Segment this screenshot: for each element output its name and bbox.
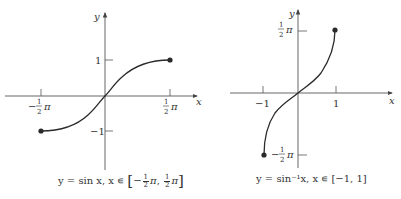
sin-y-label-1: 1 bbox=[95, 55, 101, 66]
sin-graph: x y 1 −1 − 1 2 π 1 2 π bbox=[5, 11, 202, 170]
svg-text:1: 1 bbox=[37, 98, 41, 106]
sin-caption: y = sin x, x ∊ [−12π, 12π] bbox=[58, 172, 184, 190]
svg-text:2: 2 bbox=[279, 31, 283, 39]
arcsin-curve bbox=[264, 30, 335, 155]
svg-text:2: 2 bbox=[164, 108, 168, 116]
arcsin-x-label-1: 1 bbox=[333, 98, 339, 109]
sin-curve bbox=[41, 60, 170, 131]
sin-caption-close-bracket: ] bbox=[178, 172, 184, 190]
arcsin-y-label-neg-half-pi: − 1 2 π bbox=[271, 146, 294, 164]
svg-text:−: − bbox=[271, 149, 279, 160]
sin-x-axis-label: x bbox=[196, 96, 202, 107]
sin-caption-prefix: y = sin x, x ∊ bbox=[58, 175, 127, 186]
figure-canvas: x y 1 −1 − 1 2 π 1 2 π bbox=[0, 0, 401, 199]
arcsin-caption: y = sin⁻¹x, x ∊ [−1, 1] bbox=[256, 173, 367, 184]
svg-text:1: 1 bbox=[279, 21, 283, 29]
sin-y-axis-label: y bbox=[93, 11, 100, 22]
svg-text:π: π bbox=[43, 101, 51, 112]
sin-x-label-neg-half-pi: − 1 2 π bbox=[28, 98, 51, 116]
svg-text:−: − bbox=[28, 101, 36, 112]
svg-text:2: 2 bbox=[280, 156, 284, 164]
arcsin-graph: x y −1 1 1 2 π − 1 2 π bbox=[230, 8, 395, 168]
arcsin-x-axis-label: x bbox=[389, 95, 395, 106]
sin-endpoint-left bbox=[38, 128, 43, 133]
svg-text:π: π bbox=[286, 149, 294, 160]
sin-y-label-neg1: −1 bbox=[90, 126, 105, 137]
arcsin-y-label-half-pi: 1 2 π bbox=[278, 21, 293, 39]
sin-caption-upper-frac: 12 bbox=[164, 174, 170, 189]
arcsin-endpoint-top bbox=[332, 27, 337, 32]
arcsin-x-label-neg1: −1 bbox=[255, 98, 270, 109]
sin-endpoint-right bbox=[167, 57, 172, 62]
svg-text:2: 2 bbox=[37, 108, 41, 116]
svg-text:π: π bbox=[170, 101, 178, 112]
svg-text:1: 1 bbox=[164, 98, 168, 106]
sin-x-label-half-pi: 1 2 π bbox=[163, 98, 178, 116]
arcsin-y-axis-label: y bbox=[288, 8, 295, 19]
sin-caption-lower-frac: 12 bbox=[143, 174, 149, 189]
svg-text:π: π bbox=[285, 24, 293, 35]
svg-text:1: 1 bbox=[280, 146, 284, 154]
arcsin-endpoint-bottom bbox=[261, 152, 266, 157]
